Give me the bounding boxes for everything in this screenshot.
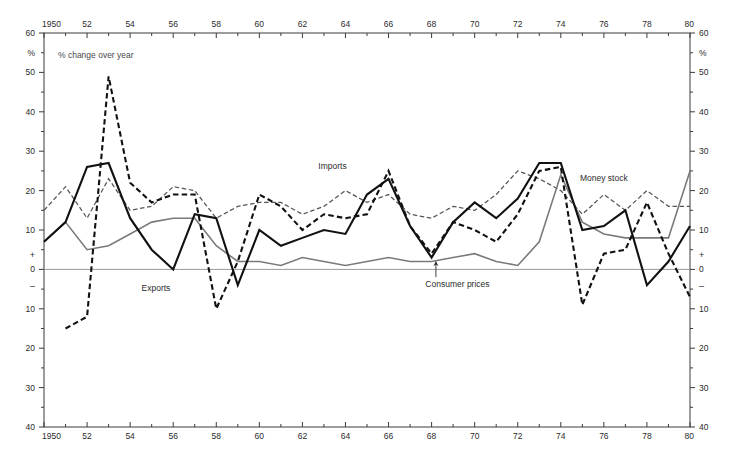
- x-axis-label-bottom: 52: [82, 431, 92, 441]
- y-axis-label-right: 0: [699, 264, 704, 274]
- chart-subtitle: % change over year: [58, 50, 134, 60]
- y-axis-label-left: 30: [26, 146, 36, 156]
- y-axis-label-right: 60: [699, 28, 709, 38]
- x-axis-label-top: 58: [212, 19, 222, 29]
- x-axis-label-top: 72: [513, 19, 523, 29]
- series-line-consumer-prices: [44, 171, 690, 266]
- x-axis-label-top: 80: [685, 19, 695, 29]
- x-axis-label-bottom: 62: [298, 431, 308, 441]
- y-axis-label-left: 20: [26, 186, 36, 196]
- y-axis-plus-sign-left: +: [30, 250, 35, 260]
- x-axis-label-bottom: 56: [168, 431, 178, 441]
- y-axis-label-right: 40: [699, 107, 709, 117]
- y-axis-unit-right: %: [699, 48, 707, 58]
- y-axis-unit-left: %: [27, 48, 35, 58]
- y-axis-label-right: 30: [699, 146, 709, 156]
- y-axis-label-right: 40: [699, 422, 709, 432]
- y-axis-label-right: 50: [699, 67, 709, 77]
- x-axis-label-bottom: 66: [384, 431, 394, 441]
- x-axis-label-bottom: 72: [513, 431, 523, 441]
- x-axis-label-top: 76: [599, 19, 609, 29]
- x-axis-label-top: 52: [82, 19, 92, 29]
- x-axis-label-bottom: 54: [125, 431, 135, 441]
- chart-container: 1950195052525454565658586060626264646666…: [0, 0, 735, 455]
- x-axis-label-bottom: 68: [427, 431, 437, 441]
- y-axis-plus-sign-right: +: [699, 250, 704, 260]
- x-axis-label-top: 78: [642, 19, 652, 29]
- chart-axes: [44, 33, 690, 427]
- y-axis-label-right: 10: [699, 304, 709, 314]
- percent-change-over-year-line-chart: 1950195052525454565658586060626264646666…: [0, 0, 735, 455]
- y-axis-label-left: 30: [26, 383, 36, 393]
- y-axis-label-left: 10: [26, 225, 36, 235]
- x-axis-label-top: 54: [125, 19, 135, 29]
- x-axis-label-bottom: 74: [556, 431, 566, 441]
- x-axis-label-top: 66: [384, 19, 394, 29]
- x-axis-label-top: 64: [341, 19, 351, 29]
- x-axis-label-bottom: 80: [685, 431, 695, 441]
- y-axis-label-right: 10: [699, 225, 709, 235]
- x-axis-label-bottom: 1950: [42, 431, 61, 441]
- y-axis-ticks: 6060505040403030202010100010102020303040…: [26, 28, 709, 432]
- y-axis-label-right: 20: [699, 186, 709, 196]
- y-axis-label-left: 0: [30, 264, 35, 274]
- y-axis-label-left: 50: [26, 67, 36, 77]
- y-axis-label-left: 10: [26, 304, 36, 314]
- series-label-exports: Exports: [142, 283, 171, 293]
- x-axis-label-top: 1950: [42, 19, 61, 29]
- x-axis-label-bottom: 60: [255, 431, 265, 441]
- x-axis-label-top: 62: [298, 19, 308, 29]
- y-axis-label-left: 40: [26, 107, 36, 117]
- x-axis-label-top: 60: [255, 19, 265, 29]
- x-axis-label-bottom: 70: [470, 431, 480, 441]
- y-axis-minus-sign-right: –: [699, 281, 704, 291]
- x-axis-label-top: 74: [556, 19, 566, 29]
- series-label-money-stock: Money stock: [580, 173, 628, 183]
- series-label-consumer-prices: Consumer prices: [425, 279, 489, 289]
- x-axis-label-bottom: 76: [599, 431, 609, 441]
- x-axis-label-bottom: 64: [341, 431, 351, 441]
- x-axis-label-top: 68: [427, 19, 437, 29]
- plot-frame: [44, 33, 690, 427]
- y-axis-label-right: 30: [699, 383, 709, 393]
- y-axis-label-left: 40: [26, 422, 36, 432]
- y-axis-label-left: 60: [26, 28, 36, 38]
- series-label-imports: Imports: [318, 161, 346, 171]
- y-axis-minus-sign-left: –: [30, 281, 35, 291]
- x-axis-label-bottom: 78: [642, 431, 652, 441]
- y-axis-label-right: 20: [699, 343, 709, 353]
- y-axis-label-left: 20: [26, 343, 36, 353]
- x-axis-label-top: 70: [470, 19, 480, 29]
- x-axis-label-top: 56: [168, 19, 178, 29]
- x-axis-label-bottom: 58: [212, 431, 222, 441]
